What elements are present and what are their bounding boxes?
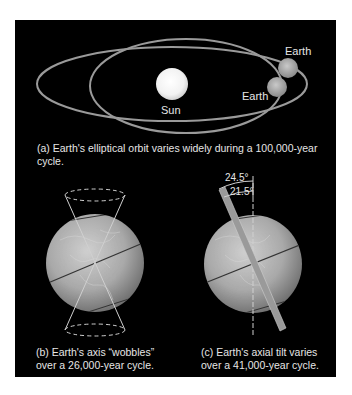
caption-a: (a) Earth's elliptical orbit varies wide… — [37, 142, 327, 167]
globe-wobble — [46, 189, 144, 336]
caption-b-line1: (b) Earth's axis “wobbles” — [36, 346, 176, 359]
caption-a-line2: cycle. — [37, 155, 327, 168]
angle-label-outer: 24.5° — [225, 172, 248, 183]
sun-label: Sun — [161, 104, 181, 117]
earth-label-lower: Earth — [242, 90, 268, 103]
angle-label-inner: 21.5° — [230, 186, 253, 197]
caption-c-line1: (c) Earth's axial tilt varies — [201, 346, 341, 359]
caption-c: (c) Earth's axial tilt varies over a 41,… — [201, 346, 341, 371]
earth-upper-icon — [278, 58, 298, 78]
precession-circle-bottom — [65, 324, 125, 336]
milankovitch-diagram — [0, 0, 352, 395]
precession-circle-top — [65, 189, 125, 201]
earth-lower-icon — [267, 77, 287, 97]
caption-c-line2: over a 41,000-year cycle. — [201, 359, 341, 372]
caption-b-line2: over a 26,000-year cycle. — [36, 359, 176, 372]
caption-b: (b) Earth's axis “wobbles” over a 26,000… — [36, 346, 176, 371]
earth-label-upper: Earth — [285, 45, 311, 58]
sun-icon — [156, 68, 188, 100]
globe-tilt — [204, 176, 302, 336]
caption-a-line1: (a) Earth's elliptical orbit varies wide… — [37, 142, 327, 155]
